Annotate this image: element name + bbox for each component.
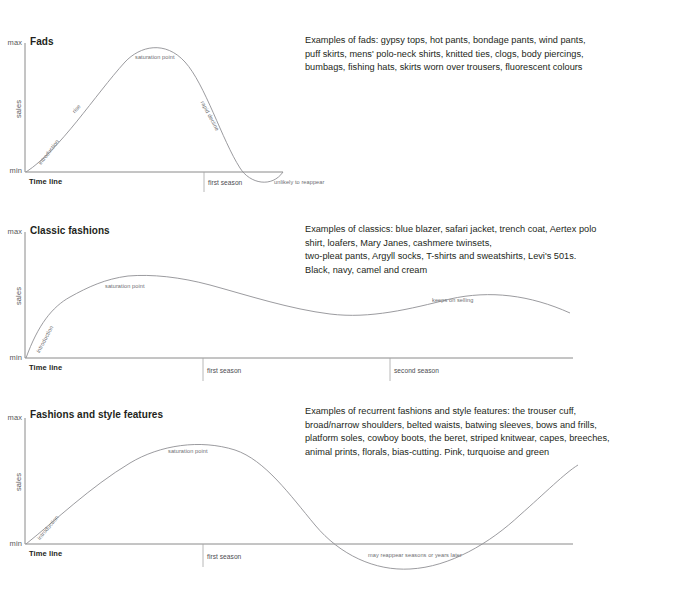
y-axis-min-label: min (0, 353, 22, 362)
x-axis-title: Time line (29, 177, 62, 186)
text-block-classics: Examples of classics: blue blazer, safar… (305, 223, 655, 277)
text-block-fads: Examples of fads: gypsy tops, hot pants,… (305, 34, 655, 75)
chart-section-fads: max min sales Time line Fads introductio… (0, 0, 679, 205)
text-line: Examples of classics: blue blazer, safar… (305, 223, 655, 237)
text-line: bumbags, fishing hats, skirts worn over … (305, 61, 655, 75)
annotation-saturation-point: saturation point (135, 54, 175, 60)
y-axis-max-label: max (0, 38, 22, 47)
chart-title-fads: Fads (30, 36, 54, 47)
text-block-features: Examples of recurrent fashions and style… (305, 405, 655, 459)
y-axis-title: sales (14, 287, 23, 305)
chart-section-classics: max min sales Time line Classic fashions… (0, 205, 679, 395)
annotation-unlikely-to-reappear: unlikely to reappear (274, 179, 324, 185)
text-line: broad/narrow shoulders, belted waists, b… (305, 419, 655, 433)
chart-section-features: max min sales Time line Fashions and sty… (0, 395, 679, 612)
text-line: puff skirts, mens' polo-neck shirts, kni… (305, 48, 655, 62)
text-line: Black, navy, camel and cream (305, 264, 655, 278)
annotation-saturation-point: saturation point (105, 283, 145, 289)
annotation-keeps-on-selling: keeps on selling (432, 297, 473, 303)
text-line: animal prints, florals, bias-cutting. Pi… (305, 446, 655, 460)
text-line: Examples of fads: gypsy tops, hot pants,… (305, 34, 655, 48)
season-label-first: first season (208, 179, 242, 186)
season-label-first: first season (207, 553, 241, 560)
y-axis-min-label: min (0, 166, 22, 175)
y-axis-max-label: max (0, 227, 22, 236)
x-axis-title: Time line (29, 549, 62, 558)
features-curve (26, 444, 578, 569)
fads-curve (26, 48, 283, 183)
text-line: Examples of recurrent fashions and style… (305, 405, 655, 419)
annotation-may-reappear: may reappear seasons or years later (368, 552, 462, 558)
chart-fads: max min sales Time line Fads introductio… (0, 0, 300, 205)
chart-title-features: Fashions and style features (30, 409, 163, 420)
season-label-second: second season (394, 367, 439, 374)
chart-fads-svg (0, 0, 300, 205)
y-axis-min-label: min (0, 539, 22, 548)
y-axis-title: sales (14, 473, 23, 491)
annotation-saturation-point: saturation point (168, 448, 208, 454)
y-axis-title: sales (14, 100, 23, 118)
text-line: two-pleat pants, Argyll socks, T-shirts … (305, 250, 655, 264)
text-line: shirt, loafers, Mary Janes, cashmere twi… (305, 237, 655, 251)
x-axis-title: Time line (29, 363, 62, 372)
text-line: platform soles, cowboy boots, the beret,… (305, 432, 655, 446)
chart-title-classics: Classic fashions (30, 225, 110, 236)
y-axis-max-label: max (0, 413, 22, 422)
season-label-first: first season (207, 367, 241, 374)
